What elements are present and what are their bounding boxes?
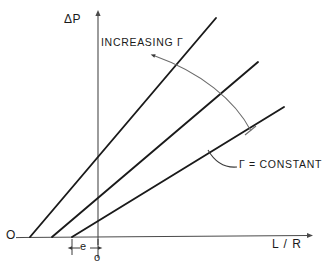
- data-line-2: [52, 62, 258, 237]
- gamma-constant-label: Γ = CONSTANT: [239, 158, 322, 170]
- increasing-gamma-arc: [155, 56, 251, 131]
- origin-left-label: O: [6, 228, 16, 242]
- data-line-3: [72, 107, 284, 237]
- increasing-gamma-label: INCREASING Γ: [101, 36, 183, 48]
- y-axis-label: ΔP: [64, 12, 81, 26]
- origin-bottom-label: o: [94, 251, 101, 263]
- gamma-constant-leader: [208, 150, 237, 167]
- eccentricity-label: e: [80, 240, 87, 252]
- x-axis: [20, 236, 309, 238]
- figure-container: ΔP L / R INCREASING Γ Γ = CONSTANT O o e: [0, 0, 325, 273]
- data-line-1: [30, 18, 216, 237]
- x-axis-label: L / R: [272, 237, 302, 251]
